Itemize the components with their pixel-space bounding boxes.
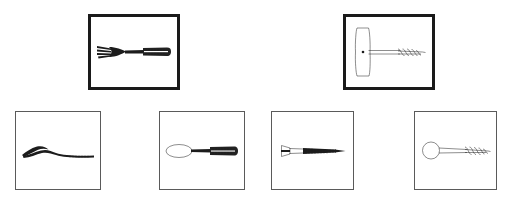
stimulus-panel xyxy=(0,0,508,209)
curved-blade-icon xyxy=(20,138,96,164)
option-box-flat-head-screw[interactable] xyxy=(271,111,354,190)
flat-head-screw-icon xyxy=(280,139,346,163)
prompt-box-t-handle-screw[interactable] xyxy=(343,14,435,90)
option-box-round-head-screw[interactable] xyxy=(414,111,497,190)
option-box-curved-tool[interactable] xyxy=(15,111,101,190)
t-handle-screw-icon xyxy=(352,23,426,81)
fork-icon xyxy=(96,38,172,66)
spoon-icon xyxy=(165,138,239,164)
prompt-box-fork[interactable] xyxy=(88,14,180,90)
option-box-spoon[interactable] xyxy=(159,111,245,190)
round-head-screw-icon xyxy=(421,137,491,165)
